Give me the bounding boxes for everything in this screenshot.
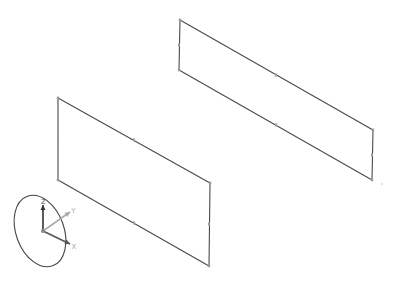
axis-y[interactable]: Y	[43, 207, 76, 231]
triad-origin	[41, 229, 45, 233]
stray-point	[381, 183, 383, 185]
sketch-vertex[interactable]	[57, 179, 60, 182]
triad-ring[interactable]	[5, 188, 75, 274]
midpoint-marker	[275, 124, 277, 127]
sketch-layer	[57, 19, 375, 268]
view-orientation-triad[interactable]: ZYX	[5, 188, 77, 274]
sketch-vertex[interactable]	[57, 97, 60, 100]
lower-rectangle[interactable]	[57, 97, 212, 268]
midpoint-marker	[208, 223, 210, 226]
model-canvas[interactable]: ZYX	[0, 0, 398, 288]
midpoint-marker	[57, 138, 59, 141]
midpoint-marker	[275, 74, 277, 77]
sketch-vertex[interactable]	[371, 179, 374, 182]
midpoint-marker	[133, 222, 135, 225]
midpoint-marker	[371, 154, 373, 157]
axis-label: Z	[41, 198, 46, 206]
upper-rectangle[interactable]	[178, 19, 375, 182]
sketch-vertex[interactable]	[209, 182, 212, 185]
sketch-vertex[interactable]	[179, 19, 182, 22]
midpoint-marker	[133, 139, 135, 142]
axis-x[interactable]: X	[43, 231, 77, 251]
axis-label: X	[72, 243, 77, 251]
sketch-vertex[interactable]	[208, 265, 211, 268]
midpoint-marker	[178, 44, 180, 47]
axis-label: Y	[70, 207, 76, 215]
axis-z[interactable]: Z	[41, 198, 47, 231]
sketch-vertex[interactable]	[178, 69, 181, 72]
sketch-vertex[interactable]	[372, 129, 375, 132]
graphics-viewport[interactable]: ZYX	[0, 0, 398, 288]
